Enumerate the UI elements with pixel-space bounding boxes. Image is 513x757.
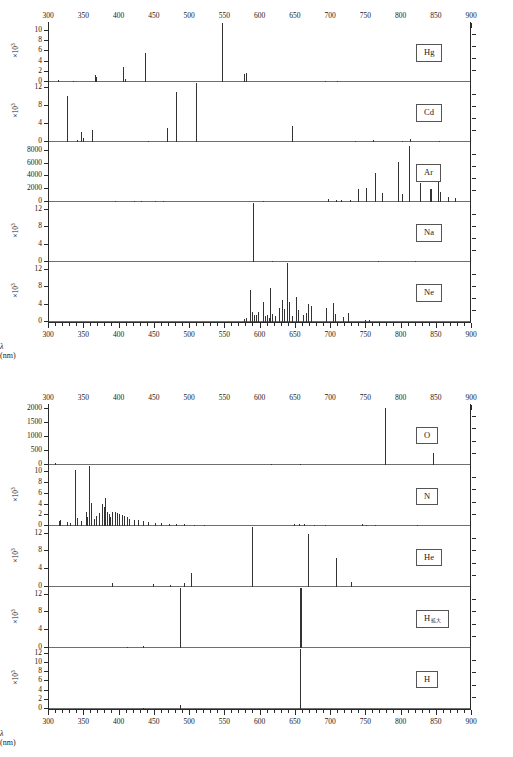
y-axis-right-tick (472, 70, 476, 71)
y-axis-tick-label: 4 (38, 240, 42, 248)
x-axis-minor-tick (344, 710, 345, 713)
x-axis-tick-label: 650 (289, 10, 300, 21)
y-axis-tick-label: 12 (35, 205, 43, 213)
element-label-cd: Cd (416, 104, 442, 122)
spectral-peak (105, 498, 106, 526)
y-axis-multiplier: ×103 (11, 38, 20, 64)
y-axis-right-tick (472, 624, 476, 625)
x-axis-major-tick (83, 323, 84, 328)
x-axis-minor-tick (76, 323, 77, 326)
x-axis-major-tick (154, 710, 155, 715)
spectrum-plot-ne (48, 262, 471, 322)
y-axis-right-tick (472, 166, 476, 167)
spectral-peak (270, 288, 271, 322)
y-axis-right-tick (472, 238, 476, 239)
y-axis-ar: 02000400060008000 (26, 142, 48, 202)
x-axis-minor-tick (90, 323, 91, 326)
y-axis-tick (44, 533, 48, 534)
y-axis-tick-label: 4 (38, 564, 42, 572)
element-label-ne: Ne (416, 284, 442, 302)
y-axis-right-tick (472, 453, 476, 454)
x-axis-tick-label: 350 (78, 392, 89, 403)
x-axis-tick-label: 350 (78, 716, 89, 727)
x-axis-minor-tick (161, 710, 162, 713)
spectral-peak (366, 188, 367, 202)
y-axis-right-tick (472, 502, 476, 503)
y-axis-multiplier: ×103 (11, 98, 20, 124)
y-axis-tick (44, 188, 48, 189)
y-axis-right-tick (472, 538, 476, 539)
x-axis-tick-label: 450 (148, 10, 159, 21)
x-axis-tick-label: 300 (42, 329, 53, 340)
x-axis-major-tick (48, 323, 49, 328)
y-axis-tick-label: 12 (35, 649, 43, 657)
y-axis-tick (44, 671, 48, 672)
y-axis-tick-label: 0 (38, 317, 42, 325)
y-axis-tick (44, 150, 48, 151)
element-label-na: Na (416, 224, 442, 242)
x-axis-minor-tick (62, 323, 63, 326)
spectral-peak (119, 514, 120, 526)
y-axis-tick-label: 4 (38, 625, 42, 633)
x-axis-minor-tick (104, 323, 105, 326)
x-axis-minor-tick (217, 710, 218, 713)
x-axis-bottom-labels: 300350400450500550600650700750800850900 (48, 716, 471, 727)
y-axis-multiplier: ×103 (11, 481, 20, 507)
x-axis-minor-tick (126, 710, 127, 713)
x-axis-major-tick (471, 405, 472, 410)
y-axis-tick (44, 304, 48, 305)
x-axis-minor-tick (55, 323, 56, 326)
spectrum-plot-ar (48, 142, 471, 202)
spectra-figure-page: 3003504004505005506006507007508008509000… (0, 0, 513, 757)
x-axis-tick-label: 450 (148, 392, 159, 403)
spectral-peak (382, 193, 383, 202)
x-axis-major-tick (330, 323, 331, 328)
x-axis-major-tick (295, 323, 296, 328)
x-axis-major-tick (154, 323, 155, 328)
y-axis-tick-label: 4 (38, 686, 42, 694)
spectral-peak (81, 132, 82, 142)
spectrum-plot-h-zoom (48, 587, 471, 648)
spectrum-plot-he (48, 526, 471, 587)
spectrum-trace (49, 648, 470, 709)
spectral-peak (301, 588, 302, 648)
y-axis-tick (44, 408, 48, 409)
x-axis-major-tick (436, 710, 437, 715)
x-axis-major-tick (224, 323, 225, 328)
x-axis-bottom-labels: 300350400450500550600650700750800850900 (48, 329, 471, 340)
x-axis-top-labels: 300350400450500550600650700750800850900 (48, 10, 471, 21)
y-axis-right-tick (472, 685, 476, 686)
y-axis-multiplier: ×103 (11, 278, 20, 304)
y-axis-h: 024681012 (26, 648, 48, 709)
y-axis-tick (44, 40, 48, 41)
x-axis-minor-tick (133, 323, 134, 326)
element-label-hg: Hg (416, 44, 442, 62)
x-axis-minor-tick (288, 323, 289, 326)
spectral-peak (115, 512, 116, 527)
x-axis-minor-tick (422, 323, 423, 326)
x-axis-major-tick (189, 323, 190, 328)
x-axis-tick-label: 750 (360, 716, 371, 727)
element-label-h: H (416, 671, 438, 689)
x-axis-minor-tick (69, 323, 70, 326)
spectral-peak (196, 83, 197, 142)
x-axis-major-tick (295, 710, 296, 715)
spectral-peak (398, 162, 399, 202)
spectral-peak (267, 315, 268, 322)
y-axis-right-tick (472, 130, 476, 131)
x-axis-tick-label: 850 (430, 329, 441, 340)
spectral-peak (258, 312, 259, 322)
y-axis-right-tick (472, 489, 476, 490)
y-axis-right-tick (472, 514, 476, 515)
y-axis-tick (44, 504, 48, 505)
spectrum-trace (49, 142, 470, 202)
x-axis-tick-label: 900 (465, 329, 476, 340)
x-axis-minor-tick (344, 323, 345, 326)
y-axis-right-tick (472, 477, 476, 478)
x-axis-minor-tick (379, 323, 380, 326)
y-axis-tick (44, 71, 48, 72)
x-axis-major-tick (260, 323, 261, 328)
x-axis-major-tick (436, 323, 437, 328)
x-axis-minor-tick (372, 323, 373, 326)
spectral-peak (326, 308, 327, 322)
